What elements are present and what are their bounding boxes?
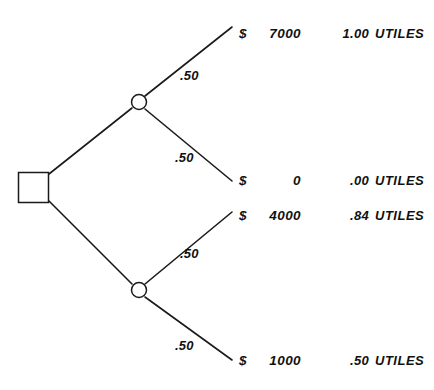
utility-value-4000: .84 (331, 208, 369, 223)
currency-symbol-1000: $ (239, 353, 247, 368)
branch-decision-to-lower-chance (49, 201, 132, 284)
utility-unit-0: UTILES (375, 173, 424, 188)
utility-value-0: .00 (331, 173, 369, 188)
branch-upper-lose (145, 109, 232, 181)
amount-value-1000: 1000 (253, 353, 301, 368)
decision-tree-diagram: .50 .50 .50 .50 $ 7000 1.00 UTILES $ 0 .… (0, 0, 434, 390)
probability-label-upper-lose: .50 (175, 150, 194, 165)
currency-symbol-4000: $ (239, 208, 247, 223)
tree-graphics (0, 0, 434, 390)
probability-label-lower-win: .50 (180, 246, 199, 261)
amount-value-7000: 7000 (253, 26, 301, 41)
currency-symbol-7000: $ (239, 26, 247, 41)
currency-symbol-0: $ (239, 173, 247, 188)
utility-unit-4000: UTILES (375, 208, 424, 223)
chance-node-lower-circle[interactable] (132, 283, 147, 298)
probability-label-lower-lose: .50 (175, 338, 194, 353)
utility-unit-7000: UTILES (375, 26, 424, 41)
utility-unit-1000: UTILES (375, 353, 424, 368)
utility-value-7000: 1.00 (331, 26, 369, 41)
chance-node-upper-circle[interactable] (132, 95, 147, 110)
branch-upper-win (145, 27, 232, 96)
amount-value-0: 0 (253, 173, 301, 188)
branch-decision-to-upper-chance (49, 108, 132, 174)
amount-value-4000: 4000 (253, 208, 301, 223)
utility-value-1000: .50 (331, 353, 369, 368)
probability-label-upper-win: .50 (180, 68, 199, 83)
decision-node-square[interactable] (19, 173, 49, 203)
